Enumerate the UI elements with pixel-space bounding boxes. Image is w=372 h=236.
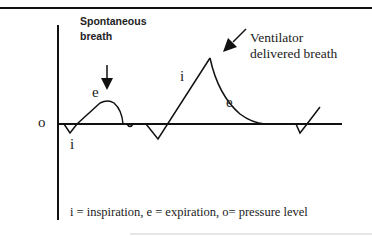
spontaneous-i-label: i: [70, 136, 74, 153]
spontaneous-e-label: e: [92, 84, 99, 101]
ventilator-inspiration-trace: [146, 58, 210, 139]
bottom-edge: [130, 233, 372, 235]
ventilator-i-label: i: [180, 68, 184, 85]
ventilator-e-label: e: [226, 94, 233, 111]
ventilator-label-line2: delivered breath: [250, 46, 337, 62]
spontaneous-inspiration-trace: [64, 103, 100, 133]
legend-text: i = inspiration, e = expiration, o= pres…: [70, 205, 308, 220]
ventilator-label-line1: Ventilator: [250, 30, 337, 46]
spontaneous-label-line2: breath: [80, 29, 147, 44]
spontaneous-label-line1: Spontaneous: [80, 14, 147, 29]
baseline-o-label: o: [38, 114, 46, 131]
ventilator-breath-label: Ventilator delivered breath: [250, 30, 337, 62]
ventilator-arrow-shaft: [233, 29, 246, 42]
next-breath-trigger: [296, 107, 320, 133]
spontaneous-expiration-arc: [100, 101, 123, 124]
spontaneous-breath-label: Spontaneous breath: [80, 14, 147, 44]
ventilator-expiration-curve: [210, 58, 265, 124]
pressure-waveform-diagram: Spontaneous breath Ventilator delivered …: [0, 0, 372, 236]
spontaneous-arrow-icon: [101, 78, 113, 90]
